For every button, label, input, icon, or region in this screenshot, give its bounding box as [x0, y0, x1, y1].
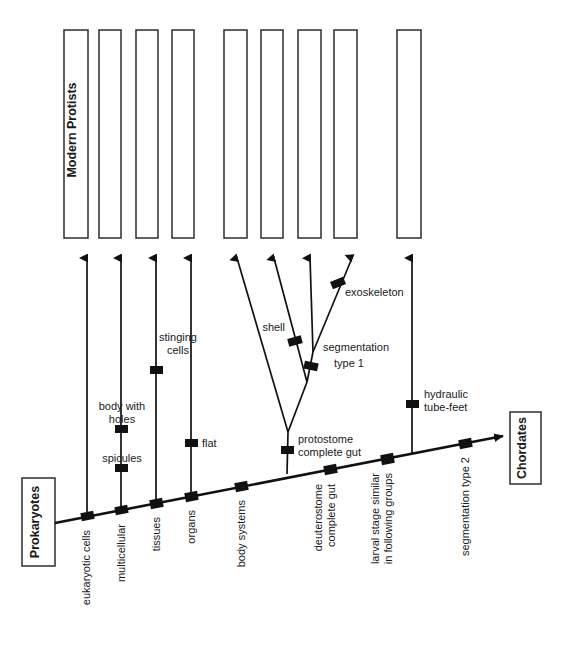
branch-tick-shell [287, 335, 303, 346]
label-multicellular: multicellular [115, 524, 127, 582]
label-protostome-complete-gut-line2: complete gut [298, 446, 361, 458]
branch-tick-flat [185, 439, 198, 447]
trunk-tick-segmentation-type-2 [458, 438, 472, 449]
label-larval-stage-line1: larval stage similar [369, 473, 381, 564]
chordates-label: Chordates [515, 417, 529, 479]
label-hydraulic-tube-feet-line2: tube-feet [424, 401, 467, 413]
protist-box-5 [224, 30, 247, 238]
trunk-tick-organs [184, 491, 198, 502]
label-shell: shell [262, 321, 285, 333]
label-stinging-cells-line1: stinging [159, 331, 197, 343]
chordates-group: Chordates [510, 412, 541, 484]
branch-tick-hydraulic-tube-feet [406, 400, 419, 408]
protist-box-9 [397, 30, 421, 238]
trunk-tick-tissues [149, 498, 163, 509]
cladogram-diagram: Modern Protists Prokaryotes Chordates [0, 0, 568, 646]
protist-box-group: Modern Protists [64, 30, 421, 238]
branch-tick-spicules [115, 464, 128, 472]
protist-box-6 [261, 30, 283, 238]
trunk-tick-deuterostome-complete-gut [323, 464, 337, 475]
branch-tick-segmentation-type-1 [303, 361, 318, 372]
prokaryotes-group: Prokaryotes [22, 478, 55, 566]
label-deuterostome-complete-gut-line2: complete gut [325, 484, 337, 547]
exoskeleton-branch [313, 258, 352, 352]
label-eukaryotic-cells: eukaryotic cells [80, 530, 92, 606]
label-segmentation-type-1-line2: type 1 [334, 357, 364, 369]
shell-branch [274, 258, 307, 382]
branch-tick-stinging-cells [150, 366, 163, 374]
protist-box-3 [136, 30, 158, 238]
label-stinging-cells-line2: cells [167, 344, 190, 356]
label-spicules: spicules [102, 452, 142, 464]
trunk-tick-larval-stage [380, 453, 395, 465]
label-segmentation-type-2: segmentation type 2 [459, 457, 471, 556]
label-larval-stage-line2: in following groups [382, 473, 394, 565]
protist-box-1-label: Modern Protists [65, 82, 79, 177]
protist-box-7 [298, 30, 321, 238]
label-body-systems: body systems [235, 500, 247, 568]
label-body-with-holes-line1: body with [99, 400, 145, 412]
branch-tick-body-with-holes [115, 425, 128, 433]
label-protostome-complete-gut-line1: protostome [298, 433, 353, 445]
branch-tick-exoskeleton [330, 277, 346, 290]
protostome-branch-right [288, 382, 307, 432]
label-deuterostome-complete-gut-line1: deuterostome [312, 484, 324, 551]
trunk-tick-body-systems [234, 481, 248, 492]
trunk-tick-multicellular [114, 505, 128, 515]
protist-box-4 [172, 30, 194, 238]
label-exoskeleton: exoskeleton [345, 286, 404, 298]
protist-box-8 [334, 30, 357, 238]
trunk-tick-eukaryotic-cells [80, 511, 94, 521]
label-segmentation-type-1-line1: segmentation [323, 341, 389, 353]
segmentation1-left-branch [310, 258, 313, 352]
branch-trait-labels: body with holes spicules stinging cells … [99, 286, 469, 464]
prokaryotes-label: Prokaryotes [28, 486, 42, 558]
label-organs: organs [185, 510, 197, 544]
label-hydraulic-tube-feet-line1: hydraulic [424, 388, 469, 400]
label-body-with-holes-line2: holes [109, 413, 136, 425]
branch-tick-protostome-complete-gut [281, 446, 294, 454]
label-tissues: tissues [150, 517, 162, 552]
protist-box-2 [99, 30, 121, 238]
cladogram-canvas: Modern Protists Prokaryotes Chordates [0, 0, 568, 646]
label-flat: flat [202, 437, 217, 449]
branch-tick-marks [115, 277, 419, 472]
